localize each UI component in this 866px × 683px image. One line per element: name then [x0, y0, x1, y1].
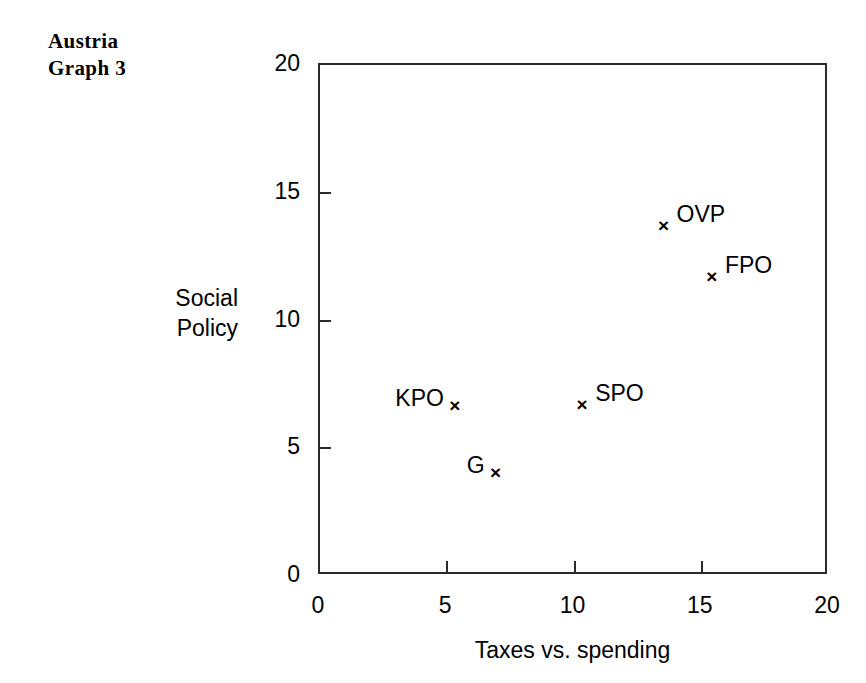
- x-tick-label-10: 10: [543, 592, 603, 619]
- x-axis-tick-15: [701, 561, 703, 572]
- cross-marker-icon: ×: [705, 267, 719, 287]
- point-label-kpo: KPO: [395, 387, 444, 410]
- x-axis-tick-10: [574, 561, 576, 572]
- point-label-ovp: OVP: [677, 203, 726, 226]
- y-axis-title-line-1: Social: [108, 283, 238, 313]
- y-tick-label-0: 0: [240, 561, 300, 588]
- x-tick-label-5: 5: [415, 592, 475, 619]
- figure-title-line-1: Austria: [48, 28, 126, 55]
- y-tick-label-10: 10: [240, 306, 300, 333]
- y-tick-label-15: 15: [240, 178, 300, 205]
- x-tick-label-20: 20: [797, 592, 857, 619]
- y-tick-label-5: 5: [240, 433, 300, 460]
- x-tick-label-15: 15: [670, 592, 730, 619]
- y-axis-title-line-2: Policy: [108, 313, 238, 343]
- cross-marker-icon: ×: [448, 396, 462, 416]
- plot-area: ×KPO×G×SPO×OVP×FPO: [318, 63, 827, 574]
- cross-marker-icon: ×: [657, 216, 671, 236]
- y-axis-tick-5: [320, 447, 331, 449]
- cross-marker-icon: ×: [489, 463, 503, 483]
- y-axis-tick-10: [320, 320, 331, 322]
- cross-marker-icon: ×: [575, 395, 589, 415]
- point-label-spo: SPO: [595, 382, 644, 405]
- y-tick-label-20: 20: [240, 50, 300, 77]
- y-axis-title: Social Policy: [108, 283, 238, 343]
- x-axis-tick-5: [446, 561, 448, 572]
- figure-title: Austria Graph 3: [48, 28, 126, 82]
- figure-title-line-2: Graph 3: [48, 55, 126, 82]
- x-axis-title: Taxes vs. spending: [318, 637, 827, 664]
- point-label-g: G: [467, 454, 485, 477]
- y-axis-tick-15: [320, 192, 331, 194]
- x-tick-label-0: 0: [288, 592, 348, 619]
- point-label-fpo: FPO: [725, 254, 772, 277]
